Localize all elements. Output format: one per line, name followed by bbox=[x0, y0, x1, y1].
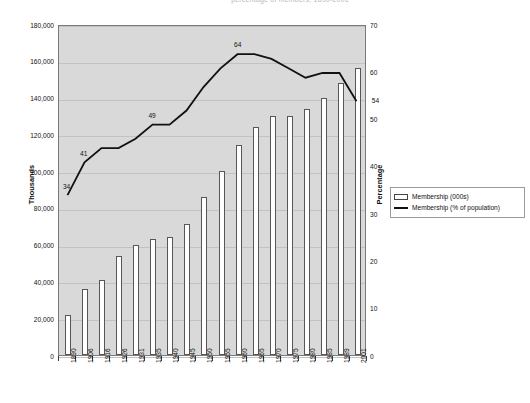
y-left-tick-160000: 160,000 bbox=[2, 58, 54, 65]
legend-item-membership-000s[interactable]: Membership (000s) bbox=[394, 192, 521, 202]
y-right-tick-0: 0 bbox=[370, 353, 396, 360]
legend-item-membership-percent[interactable]: Membership (% of population) bbox=[394, 203, 521, 213]
y-right-tick-40: 40 bbox=[370, 163, 396, 170]
line-series bbox=[59, 26, 365, 355]
x-label-1950: 1950 bbox=[206, 348, 213, 363]
line-swatch-icon bbox=[394, 207, 408, 209]
y-right-tick-70: 70 bbox=[370, 22, 396, 29]
chart-title-clipped: percentage of members, 1890-2001 bbox=[150, 0, 430, 5]
y-left-tick-120000: 120,000 bbox=[2, 132, 54, 139]
x-label-1906: 1906 bbox=[87, 348, 94, 363]
y-left-tick-60000: 60,000 bbox=[2, 242, 54, 249]
x-label-1945: 1945 bbox=[189, 348, 196, 363]
bar-swatch-icon bbox=[394, 194, 408, 200]
point-label-1935: 49 bbox=[142, 112, 162, 119]
x-label-1960: 1960 bbox=[241, 348, 248, 363]
y-right-tick-20: 20 bbox=[370, 258, 396, 265]
x-label-1985: 1985 bbox=[326, 348, 333, 363]
x-label-1955: 1955 bbox=[224, 348, 231, 363]
y-right-tick-60: 60 bbox=[370, 69, 396, 76]
plot-area bbox=[58, 25, 366, 356]
y-left-tick-0: 0 bbox=[2, 353, 54, 360]
y-left-tick-80000: 80,000 bbox=[2, 205, 54, 212]
x-label-1916: 1916 bbox=[104, 348, 111, 363]
point-label-1890: 34 bbox=[57, 183, 77, 190]
x-label-1975: 1975 bbox=[292, 348, 299, 363]
point-label-2001: 54 bbox=[365, 97, 385, 104]
x-label-1931: 1931 bbox=[138, 348, 145, 363]
x-label-2001: 2001 bbox=[360, 348, 367, 363]
x-label-1926: 1926 bbox=[121, 348, 128, 363]
x-label-1965: 1965 bbox=[258, 348, 265, 363]
legend-label: Membership (000s) bbox=[412, 193, 469, 201]
y-right-tick-50: 50 bbox=[370, 116, 396, 123]
y-left-tick-100000: 100,000 bbox=[2, 169, 54, 176]
y-axis-left-title: Thousands bbox=[27, 140, 36, 230]
x-label-1940: 1940 bbox=[172, 348, 179, 363]
chart-container: percentage of members, 1890-2001 Thousan… bbox=[0, 0, 530, 403]
chart-legend: Membership (000s) Membership (% of popul… bbox=[390, 187, 525, 218]
x-label-1935: 1935 bbox=[155, 348, 162, 363]
legend-label: Membership (% of population) bbox=[412, 204, 500, 212]
y-right-tick-10: 10 bbox=[370, 305, 396, 312]
y-left-tick-180000: 180,000 bbox=[2, 22, 54, 29]
membership-percent-line bbox=[68, 54, 357, 195]
x-tick bbox=[58, 356, 59, 361]
x-label-1989: 1989 bbox=[343, 348, 350, 363]
y-left-tick-140000: 140,000 bbox=[2, 95, 54, 102]
y-left-tick-40000: 40,000 bbox=[2, 279, 54, 286]
x-label-1970: 1970 bbox=[275, 348, 282, 363]
x-label-1890: 1890 bbox=[70, 348, 77, 363]
x-label-1980: 1980 bbox=[309, 348, 316, 363]
y-left-tick-20000: 20,000 bbox=[2, 316, 54, 323]
point-label-1906: 41 bbox=[74, 150, 94, 157]
point-label-1960: 64 bbox=[228, 41, 248, 48]
